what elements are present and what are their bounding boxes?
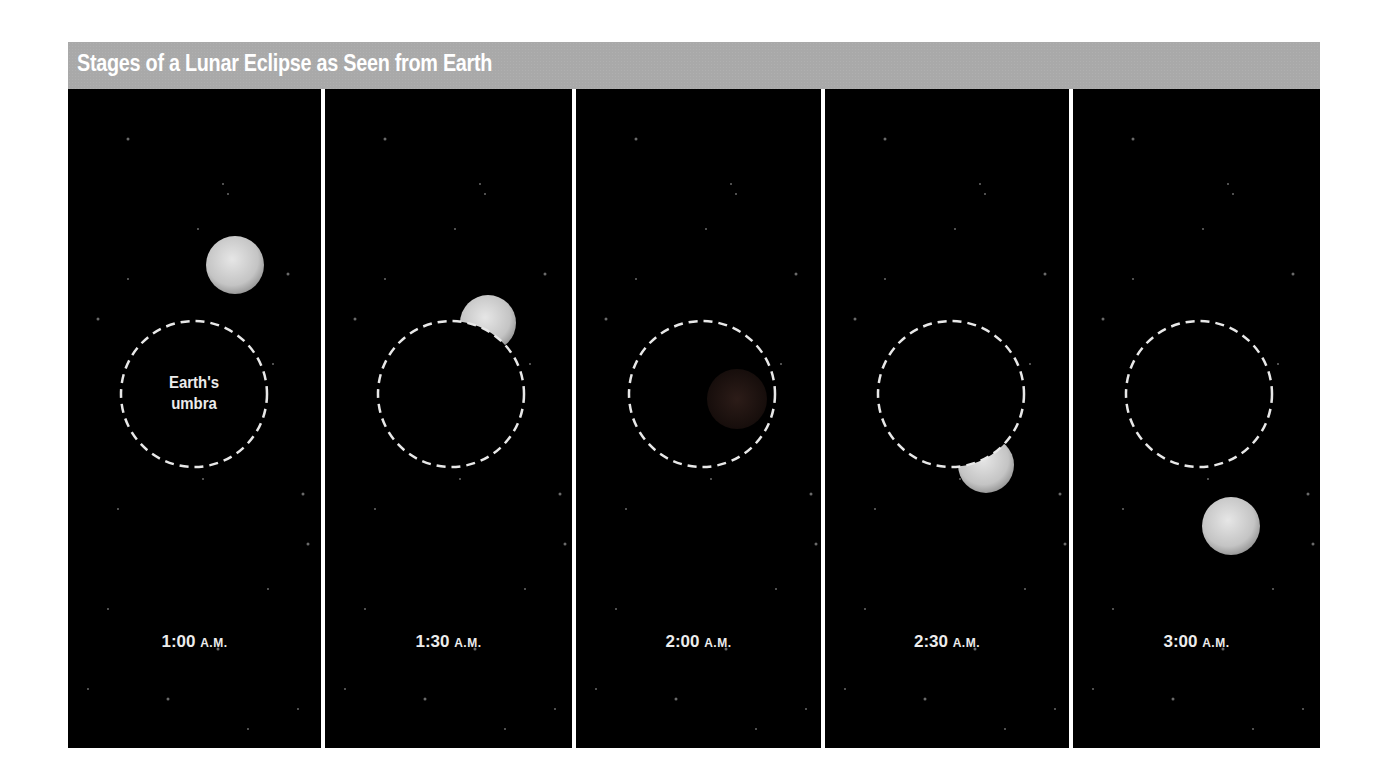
star	[544, 273, 547, 276]
star	[1112, 608, 1114, 610]
stage-panels: Earth'sumbra1:00 A.M.1:30 A.M.2:00 A.M.2…	[68, 89, 1320, 748]
star	[1272, 588, 1274, 590]
star	[1064, 543, 1067, 546]
star	[755, 728, 757, 730]
star	[227, 193, 229, 195]
star	[1172, 698, 1175, 701]
earth-umbra-outline	[1126, 321, 1272, 467]
figure-title: Stages of a Lunar Eclipse as Seen from E…	[77, 50, 492, 77]
stage-time: 1:30 A.M.	[325, 632, 572, 652]
stage-time: 3:00 A.M.	[1073, 632, 1320, 652]
star	[1054, 708, 1056, 710]
star	[1207, 478, 1209, 480]
star	[524, 588, 526, 590]
star	[1059, 493, 1062, 496]
star	[924, 698, 927, 701]
star	[374, 508, 376, 510]
umbra-label-line: umbra	[150, 393, 238, 414]
star	[307, 543, 310, 546]
star	[635, 278, 637, 280]
star	[730, 183, 732, 185]
star	[127, 278, 129, 280]
star	[267, 588, 269, 590]
time-ampm: A.M.	[454, 636, 481, 650]
star	[344, 688, 346, 690]
star	[595, 688, 597, 690]
umbra-label: Earth'sumbra	[150, 372, 238, 414]
star	[979, 183, 981, 185]
figure-header: Stages of a Lunar Eclipse as Seen from E…	[68, 42, 1320, 89]
time-value: 2:00	[665, 632, 704, 651]
star	[167, 698, 170, 701]
star	[735, 193, 737, 195]
lunar-eclipse-figure: Stages of a Lunar Eclipse as Seen from E…	[68, 42, 1320, 748]
star	[1312, 543, 1315, 546]
stage-panel: 2:30 A.M.	[825, 89, 1069, 748]
stage-time: 2:00 A.M.	[576, 632, 821, 652]
star	[222, 183, 224, 185]
star	[297, 708, 299, 710]
star	[272, 363, 274, 365]
star	[1122, 508, 1124, 510]
star	[1132, 278, 1134, 280]
star	[384, 138, 387, 141]
star	[805, 708, 807, 710]
star	[454, 228, 456, 230]
time-value: 1:30	[415, 632, 454, 651]
time-ampm: A.M.	[704, 636, 731, 650]
star	[1029, 363, 1031, 365]
star	[1227, 183, 1229, 185]
stage-time: 1:00 A.M.	[68, 632, 321, 652]
star	[1307, 493, 1310, 496]
star	[504, 728, 506, 730]
star	[775, 588, 777, 590]
star	[884, 278, 886, 280]
star	[1252, 728, 1254, 730]
star	[1302, 708, 1304, 710]
time-ampm: A.M.	[200, 636, 227, 650]
star	[1004, 728, 1006, 730]
star	[484, 193, 486, 195]
star	[780, 363, 782, 365]
star	[87, 688, 89, 690]
star	[247, 728, 249, 730]
star	[479, 183, 481, 185]
star	[554, 708, 556, 710]
star	[959, 478, 961, 480]
stage-panel: Earth'sumbra1:00 A.M.	[68, 89, 321, 748]
star	[197, 228, 199, 230]
earth-umbra-outline	[878, 321, 1024, 467]
stage-panel: 2:00 A.M.	[576, 89, 821, 748]
star	[107, 608, 109, 610]
star	[559, 493, 562, 496]
star	[127, 138, 130, 141]
star	[675, 698, 678, 701]
star	[1232, 193, 1234, 195]
star	[625, 508, 627, 510]
star	[795, 273, 798, 276]
star	[354, 318, 357, 321]
star	[810, 493, 813, 496]
star	[424, 698, 427, 701]
star	[864, 608, 866, 610]
moon	[206, 236, 264, 294]
star	[1292, 273, 1295, 276]
star	[1102, 318, 1105, 321]
star	[815, 543, 818, 546]
star	[1202, 228, 1204, 230]
star	[1132, 138, 1135, 141]
star	[635, 138, 638, 141]
star	[459, 478, 461, 480]
stage-time: 2:30 A.M.	[825, 632, 1069, 652]
star	[705, 228, 707, 230]
star	[710, 478, 712, 480]
time-value: 1:00	[161, 632, 200, 651]
time-value: 2:30	[914, 632, 953, 651]
moon	[1202, 497, 1260, 555]
earth-umbra-outline	[378, 321, 524, 467]
star	[1277, 363, 1279, 365]
star	[1044, 273, 1047, 276]
time-ampm: A.M.	[953, 636, 980, 650]
eclipsed-moon	[707, 369, 767, 429]
star	[884, 138, 887, 141]
